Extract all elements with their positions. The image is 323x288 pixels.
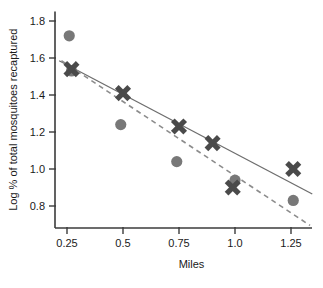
y-axis-title: Log % of total mosquitoes recaptured (7, 29, 19, 211)
y-tick-label: 1.6 (30, 52, 45, 64)
data-point-cross (287, 163, 299, 175)
y-tick-label: 0.8 (30, 200, 45, 212)
x-tick-label: 0.5 (115, 237, 130, 249)
x-axis-title: Miles (179, 258, 205, 270)
scatter-plot-figure: 0.81.01.21.41.61.80.250.50.751.01.25Mile… (0, 0, 323, 288)
axis-labels: 0.81.01.21.41.61.80.250.50.751.01.25Mile… (7, 15, 302, 270)
y-tick-label: 1.2 (30, 126, 45, 138)
y-tick-label: 1.0 (30, 163, 45, 175)
plot-canvas: 0.81.01.21.41.61.80.250.50.751.01.25Mile… (0, 0, 323, 288)
y-tick-label: 1.8 (30, 15, 45, 27)
solid-regression-line (59, 61, 312, 194)
dashed-regression-line (61, 61, 310, 226)
data-point-circle (115, 119, 126, 130)
data-points (64, 30, 300, 206)
x-tick-label: 1.25 (280, 237, 301, 249)
data-point-cross (117, 87, 129, 99)
data-point-circle (288, 195, 299, 206)
x-tick-label: 0.25 (56, 237, 77, 249)
y-tick-label: 1.4 (30, 89, 45, 101)
x-tick-label: 1.0 (227, 237, 242, 249)
data-point-circle (171, 156, 182, 167)
regression-lines (59, 61, 312, 226)
x-tick-label: 0.75 (168, 237, 189, 249)
data-point-circle (64, 30, 75, 41)
